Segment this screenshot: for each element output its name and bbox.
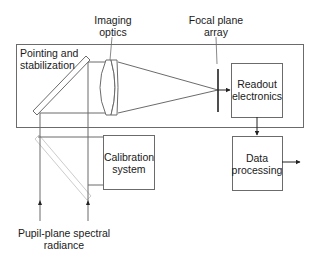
readout-electronics-label: Readout electronics — [232, 78, 282, 102]
pupil-line2: radiance — [18, 239, 110, 251]
input-arrow-right-icon — [86, 200, 90, 205]
data-processing-line1: Data — [232, 152, 283, 164]
imaging-optics-label: Imaging optics — [94, 14, 131, 38]
optical-system-diagram: Imaging optics Focal plane array Pointin… — [0, 0, 320, 260]
imaging-optics-line2: optics — [94, 26, 131, 38]
pointing-line1: Pointing and — [20, 47, 78, 59]
pupil-line1: Pupil-plane spectral — [18, 227, 110, 239]
calibration-line1: Calibration — [104, 151, 154, 163]
fpa-leader — [216, 37, 217, 64]
readout-line2: electronics — [232, 90, 282, 102]
focal-plane-array-label: Focal plane array — [189, 14, 243, 38]
input-arrow-left-icon — [38, 200, 42, 205]
ray-bottom — [118, 90, 218, 113]
imaging-optics-leader — [110, 37, 112, 60]
pointing-stabilization-label: Pointing and stabilization — [20, 47, 78, 71]
calibration-system-label: Calibration system — [104, 151, 154, 175]
calibration-line2: system — [104, 163, 154, 175]
data-processing-label: Data processing — [232, 152, 283, 176]
readout-line1: Readout — [232, 78, 282, 90]
imaging-lens — [100, 60, 118, 115]
pointing-line2: stabilization — [20, 59, 78, 71]
fpa-line1: Focal plane — [189, 14, 243, 26]
data-processing-line2: processing — [232, 164, 283, 176]
fpa-line2: array — [189, 26, 243, 38]
imaging-optics-line1: Imaging — [94, 14, 131, 26]
pupil-plane-radiance-label: Pupil-plane spectral radiance — [18, 227, 110, 251]
calibration-mirror-ghost — [35, 135, 91, 200]
diagram-canvas — [0, 0, 320, 260]
ray-top — [118, 62, 218, 90]
